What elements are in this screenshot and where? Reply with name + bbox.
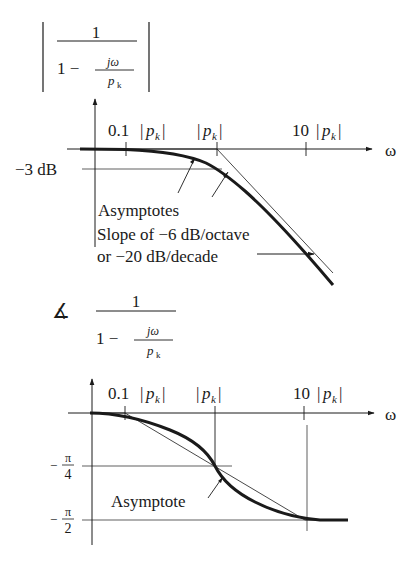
bode-diagram: 1 1 − jω p k ω 0.1 | p k | | p k | 10 <box>0 0 414 572</box>
svg-text:k: k <box>155 393 161 405</box>
svg-text:k: k <box>155 130 161 142</box>
x-axis-label: ω <box>385 141 396 160</box>
phase-curves: Asymptote <box>90 413 348 520</box>
minus-pi-over-4-label: − π 4 <box>50 451 74 482</box>
svg-text:p: p <box>145 384 155 403</box>
svg-text:2: 2 <box>65 521 72 536</box>
svg-text:k: k <box>331 130 337 142</box>
svg-text:−: − <box>50 458 57 473</box>
asymptote-label: Asymptote <box>111 492 186 511</box>
svg-text:−: − <box>50 512 57 527</box>
svg-text:|: | <box>338 121 341 140</box>
angle-symbol: ∡ <box>52 300 70 322</box>
phase-inner-denominator-sub: k <box>156 350 161 360</box>
phase-tick-label-pk: | p k | <box>196 384 221 405</box>
svg-text:k: k <box>212 130 218 142</box>
tick-label-0.1pk: 0.1 | p k | <box>108 121 165 142</box>
phase-denominator-prefix: 1 − <box>96 329 118 348</box>
minus-pi-over-2-label: − π 2 <box>50 505 74 536</box>
phase-tick-label-10pk: 10 | p k | <box>293 384 342 405</box>
svg-text:p: p <box>145 121 155 140</box>
svg-text:π: π <box>65 505 71 519</box>
svg-text:|: | <box>140 384 143 403</box>
formula-inner-denominator: p <box>107 73 115 88</box>
magnitude-formula: 1 1 − jω p k <box>43 22 149 92</box>
svg-text:π: π <box>65 451 71 465</box>
tick-label-10pk: 10 | p k | <box>292 121 341 142</box>
slope-label-line2: or −20 dB/decade <box>97 247 218 266</box>
svg-text:k: k <box>332 393 338 405</box>
magnitude-annotations: Asymptotes Slope of −6 dB/octave or −20 … <box>97 201 314 266</box>
svg-text:|: | <box>339 384 342 403</box>
svg-text:p: p <box>321 121 331 140</box>
svg-text:p: p <box>322 384 332 403</box>
svg-text:10: 10 <box>292 121 309 140</box>
svg-text:0.1: 0.1 <box>108 121 129 140</box>
svg-text:|: | <box>162 121 165 140</box>
formula-numerator: 1 <box>92 23 101 42</box>
svg-text:|: | <box>219 121 222 140</box>
svg-text:p: p <box>202 121 212 140</box>
phase-x-axis-label: ω <box>385 405 396 424</box>
svg-text:|: | <box>197 121 200 140</box>
svg-text:|: | <box>218 384 221 403</box>
phase-inner-numerator: jω <box>145 324 159 338</box>
asymptotes-label: Asymptotes <box>98 201 179 220</box>
phase-inner-denominator: p <box>146 343 154 358</box>
phase-formula: ∡ 1 1 − jω p k <box>52 292 176 360</box>
svg-text:0.1: 0.1 <box>108 384 129 403</box>
svg-text:|: | <box>316 121 319 140</box>
tick-label-pk: | p k | <box>197 121 222 142</box>
svg-text:4: 4 <box>65 467 72 482</box>
svg-text:k: k <box>211 393 217 405</box>
formula-inner-denominator-sub: k <box>117 80 122 90</box>
svg-text:|: | <box>196 384 199 403</box>
slope-label-line1: Slope of −6 dB/octave <box>97 225 250 244</box>
svg-text:p: p <box>201 384 211 403</box>
svg-text:|: | <box>140 121 143 140</box>
svg-text:|: | <box>162 384 165 403</box>
phase-formula-numerator: 1 <box>132 292 141 311</box>
svg-text:|: | <box>317 384 320 403</box>
minus-3db-label: −3 dB <box>15 160 57 179</box>
formula-denominator-prefix: 1 − <box>57 59 79 78</box>
svg-text:10: 10 <box>293 384 310 403</box>
formula-inner-numerator: jω <box>105 55 119 69</box>
phase-tick-label-0.1pk: 0.1 | p k | <box>108 384 165 405</box>
